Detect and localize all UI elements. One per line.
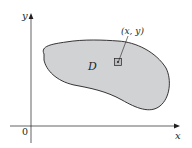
origin-label: 0 — [22, 126, 28, 137]
y-axis-label: y — [21, 10, 28, 21]
region-d-diagram: y x 0 D (x, y) — [0, 0, 192, 148]
x-axis-label: x — [175, 130, 181, 141]
region-d-shape — [43, 40, 169, 110]
y-axis-arrow-icon — [29, 13, 34, 19]
region-label: D — [87, 60, 97, 73]
point-label: (x, y) — [121, 26, 144, 36]
x-axis-arrow-icon — [174, 124, 180, 129]
